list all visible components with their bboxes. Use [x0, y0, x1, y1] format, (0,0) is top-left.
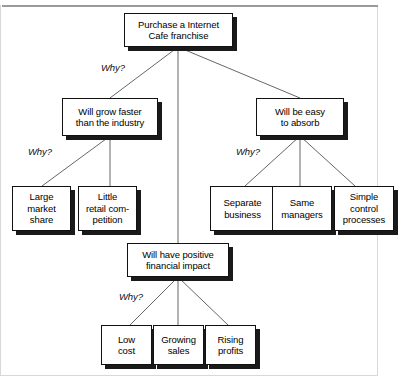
edge-left-to-large-market-share [42, 136, 110, 186]
node-leaf-large-market-share[interactable]: Large market share [12, 186, 71, 231]
node-branch-left[interactable]: Will grow faster than the industry [62, 98, 158, 136]
node-branch-middle[interactable]: Will have positive financial impact [127, 243, 229, 277]
node-leaf-large-market-share-label: Large market share [25, 191, 57, 226]
node-leaf-growing-sales[interactable]: Growing sales [153, 325, 204, 365]
node-branch-left-label: Will grow faster than the industry [74, 106, 147, 129]
diagram-canvas: Purchase a Internet Cafe franchise Will … [0, 0, 405, 390]
node-leaf-same-managers[interactable]: Same managers [272, 186, 332, 231]
node-leaf-rising-profits[interactable]: Rising profits [205, 325, 256, 365]
node-leaf-growing-sales-label: Growing sales [159, 334, 198, 357]
node-branch-right-label: Will be easy to absorb [273, 106, 327, 129]
edge-label-right-fork: Why? [236, 146, 260, 157]
edge-right-to-simple-control-processes [300, 136, 355, 186]
node-leaf-little-retail-competition-label: Little retail com- petition [84, 191, 131, 226]
node-leaf-little-retail-competition[interactable]: Little retail com- petition [78, 186, 137, 231]
node-leaf-low-cost-label: Low cost [116, 334, 137, 357]
node-leaf-rising-profits-label: Rising profits [216, 334, 246, 357]
node-root-label: Purchase a Internet Cafe franchise [136, 19, 221, 42]
edge-middle-to-rising-profits [178, 277, 228, 325]
node-leaf-simple-control-processes-label: Simple control processes [341, 191, 387, 226]
edge-root-to-right [178, 47, 300, 98]
edge-label-root-fork: Why? [101, 62, 125, 73]
node-leaf-separate-business-label: Separate business [222, 197, 264, 220]
node-branch-middle-label: Will have positive financial impact [140, 249, 216, 272]
edge-label-middle-fork: Why? [119, 291, 143, 302]
node-leaf-simple-control-processes[interactable]: Simple control processes [334, 186, 394, 231]
node-leaf-same-managers-label: Same managers [279, 197, 324, 220]
edge-right-to-separate-business [245, 136, 300, 186]
node-branch-right[interactable]: Will be easy to absorb [256, 98, 344, 136]
edge-label-left-fork: Why? [28, 146, 52, 157]
node-leaf-separate-business[interactable]: Separate business [210, 186, 275, 231]
node-root[interactable]: Purchase a Internet Cafe franchise [124, 13, 233, 47]
node-leaf-low-cost[interactable]: Low cost [101, 325, 152, 365]
